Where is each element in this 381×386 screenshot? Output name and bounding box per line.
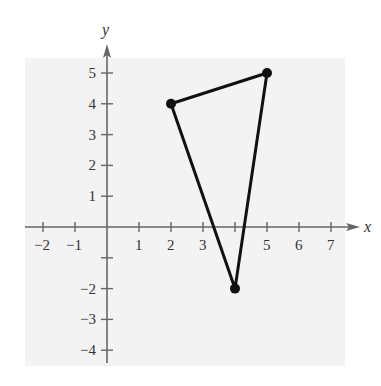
x-tick-label: 6 [295, 237, 303, 253]
y-tick-label: −4 [80, 342, 96, 358]
x-tick-label: 1 [135, 237, 143, 253]
y-tick-label: 1 [89, 188, 97, 204]
y-axis-label: y [100, 21, 110, 39]
y-tick-label: 4 [89, 96, 97, 112]
vertex-point [166, 99, 176, 109]
x-tick-label: 2 [167, 237, 175, 253]
x-tick-label: −2 [34, 237, 50, 253]
y-tick-label: −3 [80, 311, 96, 327]
x-tick-label: 5 [263, 237, 271, 253]
vertex-point [230, 284, 240, 294]
x-tick-label: 7 [327, 237, 335, 253]
y-tick-label: −2 [80, 281, 96, 297]
x-tick-label: −1 [66, 237, 82, 253]
x-tick-label: 3 [199, 237, 207, 253]
y-tick-label: 5 [89, 65, 97, 81]
plot-panel [25, 58, 345, 366]
coordinate-plane: −2−1123567−4−3−212345 x y [0, 0, 381, 386]
y-tick-label: 3 [89, 127, 97, 143]
vertex-point [262, 68, 272, 78]
y-tick-label: 2 [89, 157, 97, 173]
x-axis-label: x [363, 218, 371, 235]
